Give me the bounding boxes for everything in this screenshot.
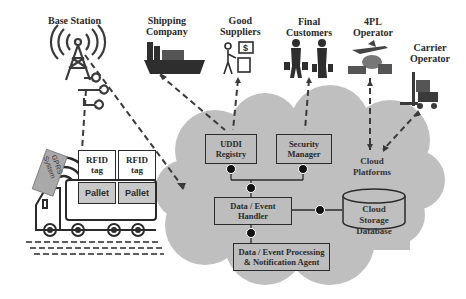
plane-ship-icon xyxy=(348,40,392,74)
base-station-label: Base Station xyxy=(48,15,101,26)
rfid-tag-1: RFID tag xyxy=(78,150,116,180)
cloud-platforms-label: Cloud Platforms xyxy=(350,156,394,178)
shipping-company-label: Shipping Company xyxy=(146,15,188,37)
final-customers-label: Final Customers xyxy=(286,16,332,38)
pallet-1: Pallet xyxy=(78,182,116,204)
radio-tower-icon xyxy=(51,25,108,108)
supplier-cart-icon: $ xyxy=(224,42,253,74)
svg-text:$: $ xyxy=(243,43,248,53)
4pl-operator-label: 4PL Operator xyxy=(353,16,393,38)
cloud-storage-label: Cloud Storage Database xyxy=(347,204,401,237)
carrier-operator-label: Carrier Operator xyxy=(410,42,450,64)
uddi-registry-box: UDDI Registry xyxy=(205,134,257,164)
processing-agent-box: Data / Event Processing & Notification A… xyxy=(233,243,330,271)
data-event-handler-box: Data / Event Handler xyxy=(214,197,292,225)
pallet-2: Pallet xyxy=(118,182,156,204)
travelers-icon xyxy=(284,39,333,78)
security-manager-box: Security Manager xyxy=(276,134,332,164)
forklift-icon xyxy=(400,72,438,109)
cargo-ship-icon xyxy=(144,42,205,74)
rfid-tag-2: RFID tag xyxy=(118,150,156,180)
good-suppliers-label: Good Suppliers xyxy=(220,15,261,37)
